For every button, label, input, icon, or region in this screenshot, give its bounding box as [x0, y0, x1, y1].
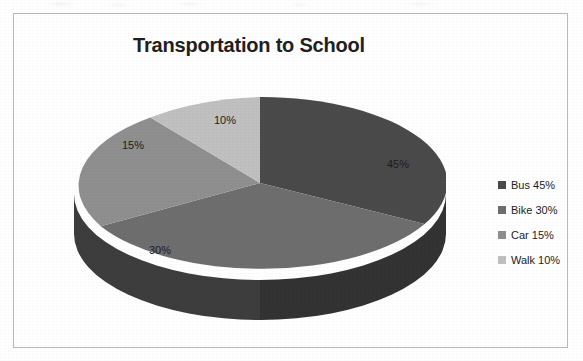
data-label-bike: 30%	[149, 244, 171, 256]
data-label-bus: 45%	[387, 158, 409, 170]
chart-frame: Transportation to School 45% 30% 15% 10%	[13, 13, 568, 348]
legend-item-car[interactable]: Car 15%	[498, 222, 578, 247]
legend-label: Walk 10%	[511, 254, 560, 266]
pie-chart[interactable]: 45% 30% 15% 10%	[74, 84, 460, 324]
data-label-walk: 10%	[214, 114, 236, 126]
legend-swatch-icon	[498, 206, 506, 214]
scan-artifact-top	[0, 0, 583, 11]
legend-swatch-icon	[498, 231, 506, 239]
chart-legend: Bus 45% Bike 30% Car 15% Walk 10%	[498, 172, 578, 272]
legend-swatch-icon	[498, 181, 506, 189]
legend-label: Car 15%	[511, 229, 554, 241]
chart-title: Transportation to School	[14, 34, 484, 57]
pie-slices[interactable]	[74, 97, 446, 269]
legend-label: Bike 30%	[511, 204, 557, 216]
legend-item-walk[interactable]: Walk 10%	[498, 247, 578, 272]
legend-label: Bus 45%	[511, 179, 555, 191]
legend-item-bike[interactable]: Bike 30%	[498, 197, 578, 222]
legend-swatch-icon	[498, 256, 506, 264]
data-label-car: 15%	[122, 139, 144, 151]
legend-item-bus[interactable]: Bus 45%	[498, 172, 578, 197]
